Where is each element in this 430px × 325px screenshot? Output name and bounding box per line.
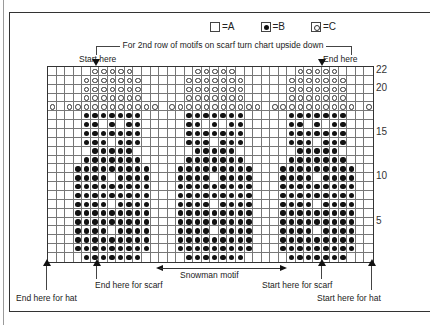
chart-cell (330, 129, 339, 138)
chart-cell (91, 120, 100, 129)
row-number-22: 22 (376, 64, 387, 75)
chart-cell (99, 173, 108, 182)
chart-cell (125, 209, 134, 218)
chart-cell (48, 138, 57, 147)
chart-cell (253, 209, 262, 218)
chart-cell (193, 173, 202, 182)
chart-cell (99, 67, 108, 76)
chart-cell (108, 102, 117, 111)
chart-cell (270, 129, 279, 138)
chart-cell (304, 76, 313, 85)
chart-cell (82, 156, 91, 165)
chart-cell (219, 67, 228, 76)
chart-cell (262, 129, 271, 138)
chart-cell (116, 244, 125, 253)
chart-cell (82, 226, 91, 235)
chart-cell (48, 218, 57, 227)
chart-cell (125, 182, 134, 191)
chart-cell (210, 253, 219, 262)
chart-cell (236, 173, 245, 182)
chart-cell (57, 129, 66, 138)
chart-cell (219, 253, 228, 262)
chart-cell (210, 164, 219, 173)
chart-cell (151, 226, 160, 235)
chart-cell (236, 218, 245, 227)
chart-cell (108, 76, 117, 85)
chart-cell (108, 129, 117, 138)
chart-cell (219, 244, 228, 253)
chart-cell (116, 129, 125, 138)
chart-cell (74, 218, 83, 227)
chart-cell (364, 85, 373, 94)
chart-cell (245, 85, 254, 94)
chart-cell (125, 76, 134, 85)
chart-cell (74, 120, 83, 129)
chart-cell (91, 102, 100, 111)
chart-cell (339, 67, 348, 76)
chart-cell (219, 147, 228, 156)
chart-cell (151, 218, 160, 227)
chart-cell (91, 173, 100, 182)
chart-cell (82, 129, 91, 138)
chart-cell (356, 200, 365, 209)
chart-cell (210, 120, 219, 129)
chart-cell (364, 182, 373, 191)
chart-cell (125, 200, 134, 209)
chart-cell (176, 85, 185, 94)
chart-cell (270, 218, 279, 227)
chart-cell (116, 218, 125, 227)
chart-cell (142, 253, 151, 262)
chart-cell (210, 191, 219, 200)
chart-cell (151, 138, 160, 147)
chart-cell (99, 200, 108, 209)
chart-cell (245, 235, 254, 244)
chart-cell (159, 191, 168, 200)
chart-cell (116, 235, 125, 244)
chart-cell (296, 182, 305, 191)
chart-cell (356, 173, 365, 182)
chart-cell (74, 182, 83, 191)
chart-cell (262, 182, 271, 191)
chart-cell (210, 102, 219, 111)
chart-cell (133, 182, 142, 191)
chart-cell (151, 164, 160, 173)
chart-cell (159, 156, 168, 165)
chart-cell (227, 67, 236, 76)
chart-cell (133, 102, 142, 111)
chart-cell (279, 209, 288, 218)
chart-cell (339, 129, 348, 138)
chart-cell (193, 209, 202, 218)
chart-cell (279, 102, 288, 111)
chart-cell (339, 138, 348, 147)
chart-cell (304, 147, 313, 156)
chart-cell (339, 191, 348, 200)
chart-cell (347, 156, 356, 165)
chart-cell (287, 235, 296, 244)
chart-cell (91, 182, 100, 191)
chart-cell (116, 253, 125, 262)
chart-cell (322, 120, 331, 129)
chart-cell (330, 191, 339, 200)
chart-cell (296, 226, 305, 235)
chart-cell (91, 164, 100, 173)
chart-cell (74, 129, 83, 138)
chart-cell (227, 85, 236, 94)
chart-cell (116, 102, 125, 111)
chart-cell (339, 164, 348, 173)
chart-cell (65, 129, 74, 138)
chart-cell (296, 164, 305, 173)
chart-cell (133, 67, 142, 76)
chart-cell (176, 209, 185, 218)
chart-cell (116, 182, 125, 191)
chart-cell (108, 191, 117, 200)
chart-cell (82, 85, 91, 94)
chart-cell (185, 94, 194, 103)
chart-cell (245, 173, 254, 182)
chart-cell (364, 147, 373, 156)
chart-cell (176, 235, 185, 244)
chart-cell (313, 138, 322, 147)
chart-cell (202, 218, 211, 227)
chart-cell (159, 218, 168, 227)
chart-cell (57, 67, 66, 76)
chart-cell (57, 76, 66, 85)
